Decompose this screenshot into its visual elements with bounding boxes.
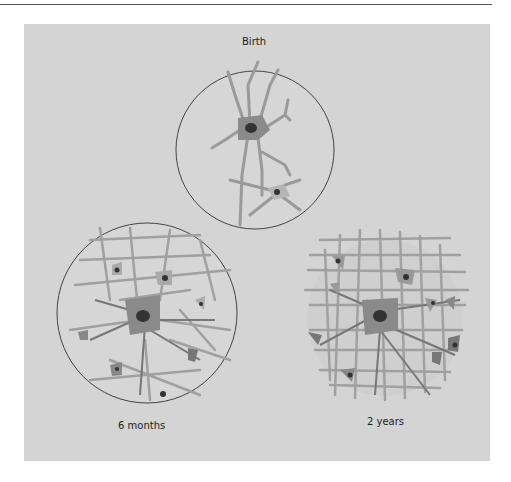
neuron-diagram [0, 0, 511, 482]
label-2-years: 2 years [367, 416, 404, 427]
label-birth: Birth [242, 36, 266, 47]
six-months-circle [57, 223, 237, 403]
two-years-circle [305, 230, 468, 400]
label-6-months: 6 months [118, 420, 165, 431]
birth-circle [176, 62, 334, 229]
